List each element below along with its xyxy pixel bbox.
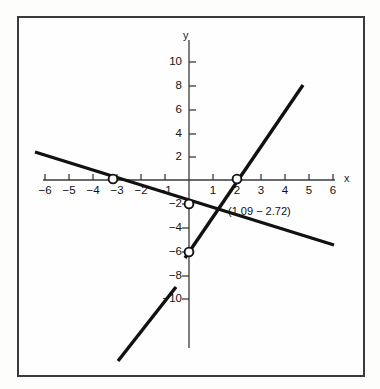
x-tick-label-neg4: −4 xyxy=(82,184,104,196)
x-tick-label-2: 2 xyxy=(229,184,245,196)
x-tick-label-neg2: −2 xyxy=(130,184,152,196)
graph-screenshot: −6 −5 −4 −3 −2 −1 1 2 3 4 5 6 10 8 6 4 2… xyxy=(0,0,380,389)
y-tick-label-10: 10 xyxy=(154,55,182,67)
open-circle-y-intercept-upper xyxy=(185,200,194,209)
y-tick-label-4: 4 xyxy=(154,127,182,139)
y-tick-label-neg2: −2 xyxy=(150,197,182,209)
y-tick-label-6: 6 xyxy=(154,103,182,115)
y-tick-label-neg6: −6 xyxy=(150,245,182,257)
y-tick-label-neg4: −4 xyxy=(150,221,182,233)
x-tick-label-neg6: −6 xyxy=(34,184,56,196)
open-circle-y-intercept-lower xyxy=(185,248,194,257)
x-tick-label-4: 4 xyxy=(277,184,293,196)
increasing-line-upper xyxy=(185,85,303,258)
x-tick-label-5: 5 xyxy=(301,184,317,196)
open-circle-x-intercept-right xyxy=(233,175,242,184)
y-tick-label-2: 2 xyxy=(154,150,182,162)
x-tick-label-neg3: −3 xyxy=(106,184,128,196)
x-tick-label-neg5: −5 xyxy=(58,184,80,196)
x-axis-label: x xyxy=(344,172,350,184)
y-tick-label-neg8: −8 xyxy=(150,269,182,281)
x-tick-label-6: 6 xyxy=(325,184,341,196)
x-tick-label-1: 1 xyxy=(205,184,221,196)
decreasing-line xyxy=(35,152,334,245)
y-tick-label-8: 8 xyxy=(154,79,182,91)
coordinate-plane xyxy=(0,0,380,389)
y-axis-label: y xyxy=(183,29,189,41)
intersection-point-label: (1.09 − 2.72) xyxy=(228,205,291,217)
open-circle-x-intercept-left xyxy=(109,175,118,184)
x-tick-label-neg1: −1 xyxy=(154,184,176,196)
y-tick-label-neg10: −10 xyxy=(146,292,182,304)
x-tick-label-3: 3 xyxy=(253,184,269,196)
